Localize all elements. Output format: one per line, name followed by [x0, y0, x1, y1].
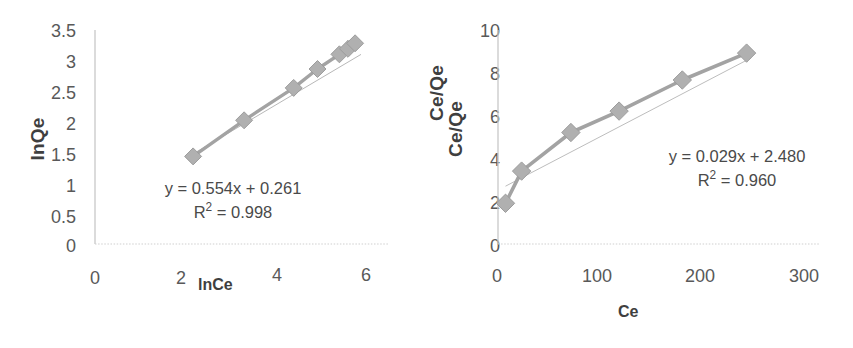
data-point	[673, 71, 691, 89]
data-point	[737, 44, 755, 62]
plot-area	[426, 0, 853, 348]
data-point	[610, 102, 628, 120]
langmuir-isotherm-chart: Ce/Qe Ce/Qe 10 8 6 4 2 0 0 100 200 300 C…	[426, 0, 853, 348]
data-point-markers	[496, 44, 755, 213]
freundlich-isotherm-chart: lnQe 3.5 3 2.5 2 1.5 1 0.5 0 0 2 4 6 lnC…	[0, 0, 427, 348]
data-series-line	[193, 43, 355, 156]
data-point	[496, 194, 514, 212]
plot-area	[0, 0, 427, 348]
isotherm-figure: lnQe 3.5 3 2.5 2 1.5 1 0.5 0 0 2 4 6 lnC…	[0, 0, 853, 348]
data-series-line	[506, 53, 747, 203]
trendline	[506, 58, 752, 186]
